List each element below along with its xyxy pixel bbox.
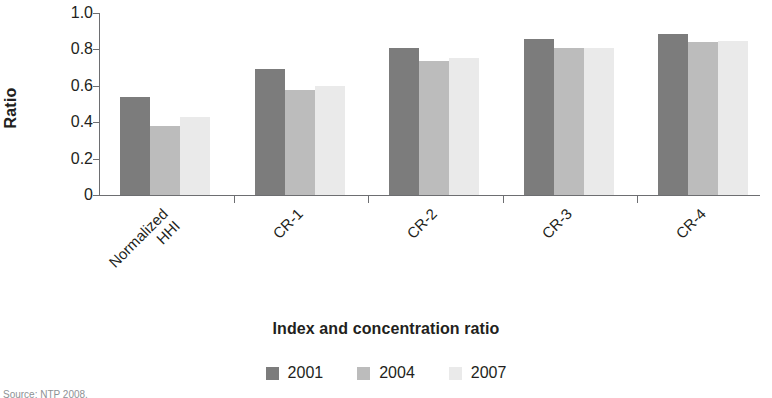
- bar-group: [255, 13, 345, 195]
- x-axis-tick-label-line: CR-2: [315, 205, 440, 330]
- legend-swatch-icon: [357, 367, 370, 380]
- y-axis-tick-mark: [93, 195, 99, 196]
- x-axis-tick-label-line: CR-4: [584, 205, 709, 330]
- bar-2001-cr-3: [524, 39, 554, 195]
- x-axis-tick-label-line: CR-1: [181, 205, 306, 330]
- source-note: Source: NTP 2008.: [3, 389, 88, 398]
- legend-label: 2001: [288, 365, 324, 381]
- bar-2001-cr-2: [389, 48, 419, 195]
- x-axis-tick-mark: [234, 196, 235, 203]
- x-axis-tick-mark: [368, 196, 369, 203]
- x-axis-line: [99, 195, 760, 196]
- x-axis-tick-label: CR-4: [584, 205, 709, 330]
- legend-label: 2007: [471, 365, 507, 381]
- y-axis-title: Ratio: [2, 68, 20, 148]
- bar-chart-figure: Ratio 1.00.80.60.40.20 Index and concent…: [0, 0, 772, 398]
- bar-group: [389, 13, 479, 195]
- bar-2007-cr-1: [315, 86, 345, 195]
- x-axis-tick-label-line: CR-3: [450, 205, 575, 330]
- bar-2004-cr-4: [688, 42, 718, 195]
- y-axis-tick-label: 0: [45, 187, 93, 203]
- y-axis-tick-labels: 1.00.80.60.40.20: [36, 0, 93, 398]
- bar-2007-cr-3: [584, 48, 614, 195]
- x-axis-title: Index and concentration ratio: [0, 320, 772, 338]
- y-axis-tick-mark: [93, 13, 99, 14]
- y-axis-tick-label: 0.4: [45, 114, 93, 130]
- legend-swatch-icon: [266, 367, 279, 380]
- bar-2004-cr-2: [419, 61, 449, 195]
- chart-legend: 200120042007: [0, 365, 772, 381]
- legend-item-2001[interactable]: 2001: [266, 365, 324, 381]
- y-axis-tick-mark: [93, 159, 99, 160]
- legend-swatch-icon: [449, 367, 462, 380]
- y-axis-tick-mark: [93, 122, 99, 123]
- legend-label: 2004: [379, 365, 415, 381]
- y-axis-tick-label: 0.2: [45, 151, 93, 167]
- bar-2001-normalized-hhi: [120, 97, 150, 195]
- x-axis-tick-label: CR-1: [181, 205, 306, 330]
- bar-group: [658, 13, 748, 195]
- bar-group: [524, 13, 614, 195]
- bar-2004-cr-3: [554, 48, 584, 195]
- y-axis-tick-mark: [93, 49, 99, 50]
- bar-2004-normalized-hhi: [150, 126, 180, 195]
- y-axis-tick-label: 0.6: [45, 78, 93, 94]
- x-axis-tick-mark: [503, 196, 504, 203]
- bar-2004-cr-1: [285, 90, 315, 195]
- x-axis-tick-label: CR-3: [450, 205, 575, 330]
- y-axis-tick-label: 0.8: [45, 41, 93, 57]
- legend-item-2007[interactable]: 2007: [449, 365, 507, 381]
- x-axis-tick-label: CR-2: [315, 205, 440, 330]
- legend-item-2004[interactable]: 2004: [357, 365, 415, 381]
- x-axis-tick-mark: [637, 196, 638, 203]
- y-axis-tick-mark: [93, 86, 99, 87]
- bar-2007-normalized-hhi: [180, 117, 210, 195]
- bar-2001-cr-4: [658, 34, 688, 195]
- bar-group: [120, 13, 210, 195]
- y-axis-tick-label: 1.0: [45, 5, 93, 21]
- bar-2001-cr-1: [255, 69, 285, 195]
- bar-2007-cr-2: [449, 58, 479, 195]
- bar-2007-cr-4: [718, 41, 748, 195]
